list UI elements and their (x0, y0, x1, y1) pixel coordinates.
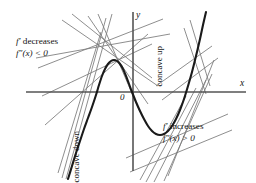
tangent-lines-concave-up (126, 20, 232, 182)
second-derivative-negative: f″(x) < 0 (16, 48, 58, 59)
concavity-diagram: y x 0 concave down concave up f′ decreas… (0, 0, 256, 183)
function-curve (68, 12, 206, 179)
annotation-increases-line1: f′ increases (163, 121, 204, 132)
concave-up-label: concave up (154, 46, 165, 87)
annotation-f-prime-decreases: f′ decreases f″(x) < 0 (16, 36, 58, 59)
annotation-f-prime-increases: f′ increases f″(x) > 0 (163, 121, 204, 144)
second-derivative-positive: f″(x) > 0 (163, 133, 204, 144)
concave-down-label: concave down (71, 131, 82, 183)
annotation-decreases-line1: f′ decreases (16, 36, 58, 47)
tangent-line (62, 18, 106, 178)
y-axis-label: y (136, 10, 140, 21)
increases-text: increases (168, 121, 204, 131)
x-axis-label: x (240, 78, 244, 89)
decreases-text: decreases (21, 36, 59, 46)
axes-group (26, 12, 246, 171)
origin-label: 0 (120, 92, 125, 103)
diagram-canvas (0, 0, 256, 183)
